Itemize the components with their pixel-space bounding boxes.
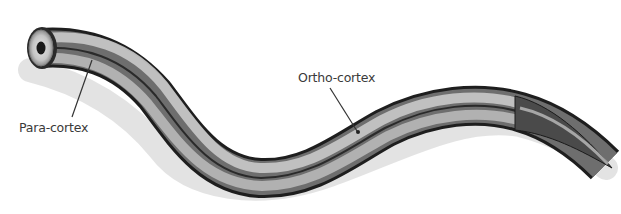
fiber-illustration (0, 0, 621, 214)
ortho-cortex-leader-line (330, 88, 357, 131)
wool-fiber-diagram: Para-cortex Ortho-cortex (0, 0, 621, 214)
ortho-cortex-label: Ortho-cortex (298, 70, 375, 85)
medulla-core (37, 42, 46, 55)
para-cortex-label: Para-cortex (19, 120, 88, 135)
